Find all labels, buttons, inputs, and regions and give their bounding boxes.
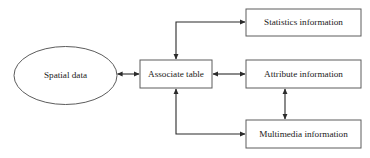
connector-associate-to-multimedia [176, 89, 245, 134]
multimedia-information-label: Multimedia information [259, 129, 348, 139]
node-statistics-information[interactable]: Statistics information [246, 9, 361, 36]
node-associate-table[interactable]: Associate table [140, 60, 212, 88]
associate-table-label: Associate table [148, 69, 204, 79]
node-spatial-data[interactable]: Spatial data [14, 47, 117, 105]
diagram-svg: Spatial data Associate table Statistics … [0, 0, 370, 158]
spatial-data-label: Spatial data [44, 70, 87, 80]
node-attribute-information[interactable]: Attribute information [246, 60, 361, 88]
attribute-information-label: Attribute information [264, 69, 343, 79]
node-multimedia-information[interactable]: Multimedia information [246, 120, 361, 148]
connector-associate-to-statistics [176, 22, 245, 59]
diagram-canvas: Spatial data Associate table Statistics … [0, 0, 370, 158]
statistics-information-label: Statistics information [264, 17, 343, 27]
